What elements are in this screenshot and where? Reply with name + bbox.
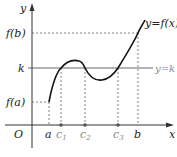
c3-label: c3 — [113, 128, 124, 142]
c3-point — [116, 123, 120, 127]
c1-label: c1 — [56, 128, 67, 142]
k-line-label: y=k — [154, 63, 175, 74]
fa-label: f(a) — [5, 96, 25, 109]
fb-label: f(b) — [5, 27, 26, 40]
function-curve — [49, 20, 145, 102]
c2-point — [83, 123, 87, 127]
y-axis-arrow-icon — [30, 3, 35, 11]
ivt-diagram: y x O f(b) k f(a) a c1 c2 c3 b y=f(x) y=… — [0, 0, 177, 157]
c2-label: c2 — [80, 128, 91, 142]
curve-label: y=f(x) — [144, 17, 177, 30]
x-axis-label: x — [169, 128, 176, 141]
a-label: a — [45, 128, 52, 141]
c1-point — [59, 123, 63, 127]
k-label: k — [18, 62, 25, 75]
b-label: b — [134, 128, 141, 141]
x-axis-arrow-icon — [166, 123, 174, 128]
origin-label: O — [14, 128, 23, 141]
y-axis-label: y — [19, 2, 27, 15]
dashed-guides — [32, 33, 138, 125]
